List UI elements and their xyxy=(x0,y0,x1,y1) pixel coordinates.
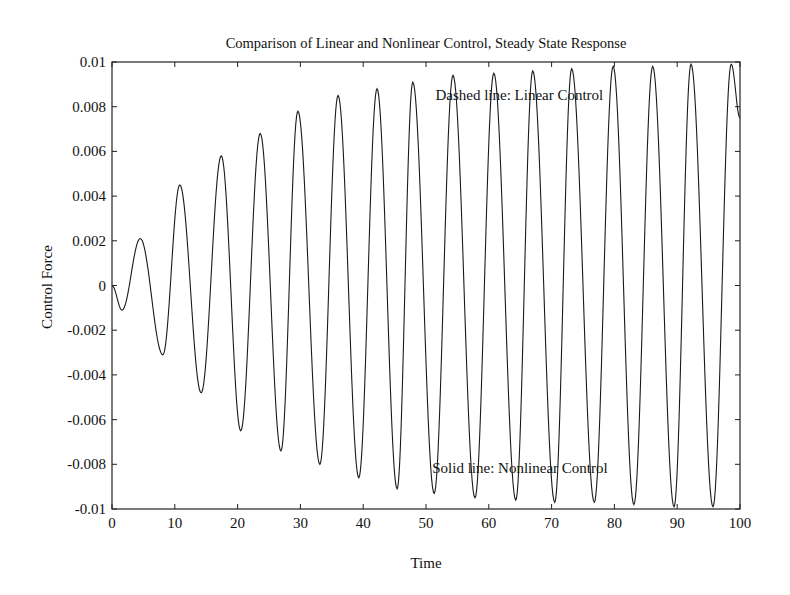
y-tick-label: -0.004 xyxy=(67,367,106,383)
y-tick-label: 0.01 xyxy=(80,54,106,70)
plot-frame xyxy=(112,62,740,509)
x-tick-label: 90 xyxy=(670,515,685,531)
plot-area: 0102030405060708090100 0.010.0080.0060.0… xyxy=(67,54,751,531)
y-tick-label: 0.002 xyxy=(72,233,106,249)
annotation-nonlinear: Solid line: Nonlinear Control xyxy=(432,460,607,476)
y-tick-label: -0.006 xyxy=(67,412,106,428)
y-tick-label: -0.01 xyxy=(75,501,106,517)
y-axis-ticks: 0.010.0080.0060.0040.0020-0.002-0.004-0.… xyxy=(67,54,740,517)
y-axis-label: Control Force xyxy=(39,245,55,329)
annotation-linear: Dashed line: Linear Control xyxy=(435,87,603,103)
x-tick-label: 80 xyxy=(607,515,622,531)
y-tick-label: 0.008 xyxy=(72,99,106,115)
x-axis-label: Time xyxy=(410,555,441,571)
x-tick-label: 50 xyxy=(419,515,434,531)
chart-title: Comparison of Linear and Nonlinear Contr… xyxy=(226,35,627,51)
response-curve xyxy=(112,64,740,507)
x-tick-label: 100 xyxy=(729,515,752,531)
x-tick-label: 70 xyxy=(544,515,559,531)
x-axis-ticks: 0102030405060708090100 xyxy=(108,62,751,531)
x-tick-label: 20 xyxy=(230,515,245,531)
x-tick-label: 40 xyxy=(356,515,371,531)
y-tick-label: -0.008 xyxy=(67,456,106,472)
y-tick-label: 0 xyxy=(99,278,107,294)
y-tick-label: -0.002 xyxy=(67,322,106,338)
y-tick-label: 0.004 xyxy=(72,188,106,204)
chart: Comparison of Linear and Nonlinear Contr… xyxy=(0,0,790,595)
y-tick-label: 0.006 xyxy=(72,143,106,159)
x-tick-label: 0 xyxy=(108,515,116,531)
x-tick-label: 30 xyxy=(293,515,308,531)
x-tick-label: 60 xyxy=(481,515,496,531)
x-tick-label: 10 xyxy=(167,515,182,531)
